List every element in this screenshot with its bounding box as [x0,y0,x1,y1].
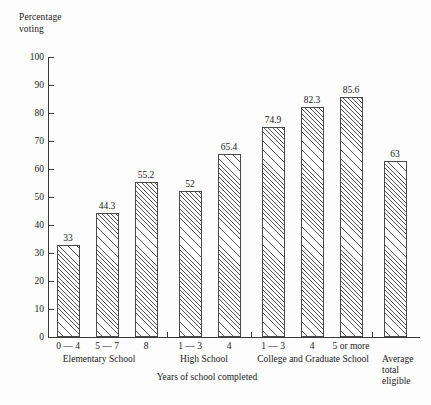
bar-value-label: 85.6 [343,85,360,95]
group-label-average-line2: total [382,365,428,376]
bar-value-label: 33 [63,233,73,243]
group-label-elementary: Elementary School [63,354,136,365]
group-label-college: College and Graduate School [257,354,369,365]
bar: 52 [179,191,202,337]
bar-value-label: 65.4 [221,142,238,152]
y-axis-tick-label: 60 [18,165,44,175]
y-axis-tick-label-wrap: 0 [14,337,44,338]
bar: 65.4 [218,154,241,337]
y-axis-tick-label: 0 [18,333,44,343]
bar: 33 [57,245,80,337]
x-axis-group-separator [372,332,373,338]
bar-slot: 33 [57,57,80,337]
bar: 82.3 [301,107,324,337]
x-axis-category-label: 5 — 7 [95,341,119,352]
x-axis-category-label: 0 — 4 [56,341,80,352]
x-axis-group-separator [251,332,252,338]
group-label-high-school: High School [180,354,228,365]
y-axis-tick-label-wrap: 50 [14,197,44,198]
bar-value-label: 44.3 [99,201,116,211]
y-axis-tick [48,169,54,170]
x-axis-category-label: 1 — 3 [178,341,202,352]
bar: 44.3 [96,213,119,337]
x-axis-group-separator [167,332,168,338]
bar-slot: 82.3 [301,57,324,337]
y-axis-tick-label: 10 [18,305,44,315]
bar-value-label: 82.3 [304,95,321,105]
y-axis-tick-label: 50 [18,193,44,203]
x-axis-category-label: 4 [227,341,232,352]
bar-slot: 63 [384,57,407,337]
bar: 85.6 [340,97,363,337]
bar-slot: 65.4 [218,57,241,337]
bar-value-label: 52 [185,179,195,189]
group-label-average-line1: Average [382,354,428,365]
y-axis-tick [48,197,54,198]
y-axis-tick-label: 90 [18,81,44,91]
bar-value-label: 74.9 [265,115,282,125]
bar-slot: 55.2 [135,57,158,337]
y-axis-tick [48,141,54,142]
y-axis-tick-label-wrap: 10 [14,309,44,310]
y-axis-tick-label-wrap: 30 [14,253,44,254]
bar-value-label: 63 [390,149,400,159]
y-axis-tick-label-wrap: 90 [14,85,44,86]
x-axis-category-label: 8 [144,341,149,352]
group-label-average-line3: eligible [382,376,428,387]
bar-slot: 74.9 [262,57,285,337]
y-axis-tick [48,85,54,86]
y-axis-tick-label-wrap: 60 [14,169,44,170]
y-axis-tick-label: 100 [18,53,44,63]
group-label-average: Average total eligible [382,354,428,387]
bar: 55.2 [135,182,158,337]
y-axis-tick [48,113,54,114]
bar-slot: 44.3 [96,57,119,337]
y-axis-tick-label: 40 [18,221,44,231]
bar-slot: 52 [179,57,202,337]
y-axis-tick [48,337,54,338]
bar: 63 [384,161,407,337]
x-axis-line [48,337,420,338]
y-axis-tick [48,57,54,58]
y-axis-tick-label: 70 [18,137,44,147]
y-axis-tick [48,225,54,226]
x-axis-category-label: 1 — 3 [261,341,285,352]
y-axis-tick-label-wrap: 80 [14,113,44,114]
y-axis-tick-label-wrap: 20 [14,281,44,282]
y-axis-tick [48,281,54,282]
bar-slot: 85.6 [340,57,363,337]
x-axis-category-label: 5 or more [333,341,370,352]
y-axis-tick-label: 30 [18,249,44,259]
y-axis-tick-label-wrap: 40 [14,225,44,226]
y-axis-tick [48,309,54,310]
bar-value-label: 55.2 [138,170,155,180]
y-axis-tick-label: 80 [18,109,44,119]
y-axis-tick-label-wrap: 70 [14,141,44,142]
y-axis-tick-label-wrap: 100 [14,57,44,58]
y-axis-title: Percentage voting [19,11,62,35]
bar-chart: Percentage voting 1009080706050403020100… [0,0,431,405]
x-axis-category-label: 4 [310,341,315,352]
y-axis-tick-label: 20 [18,277,44,287]
y-axis-tick [48,253,54,254]
y-axis-title-line1: Percentage [19,12,62,22]
bar: 74.9 [262,127,285,337]
y-axis-title-line2: voting [19,23,62,35]
x-axis-title: Years of school completed [157,372,258,383]
